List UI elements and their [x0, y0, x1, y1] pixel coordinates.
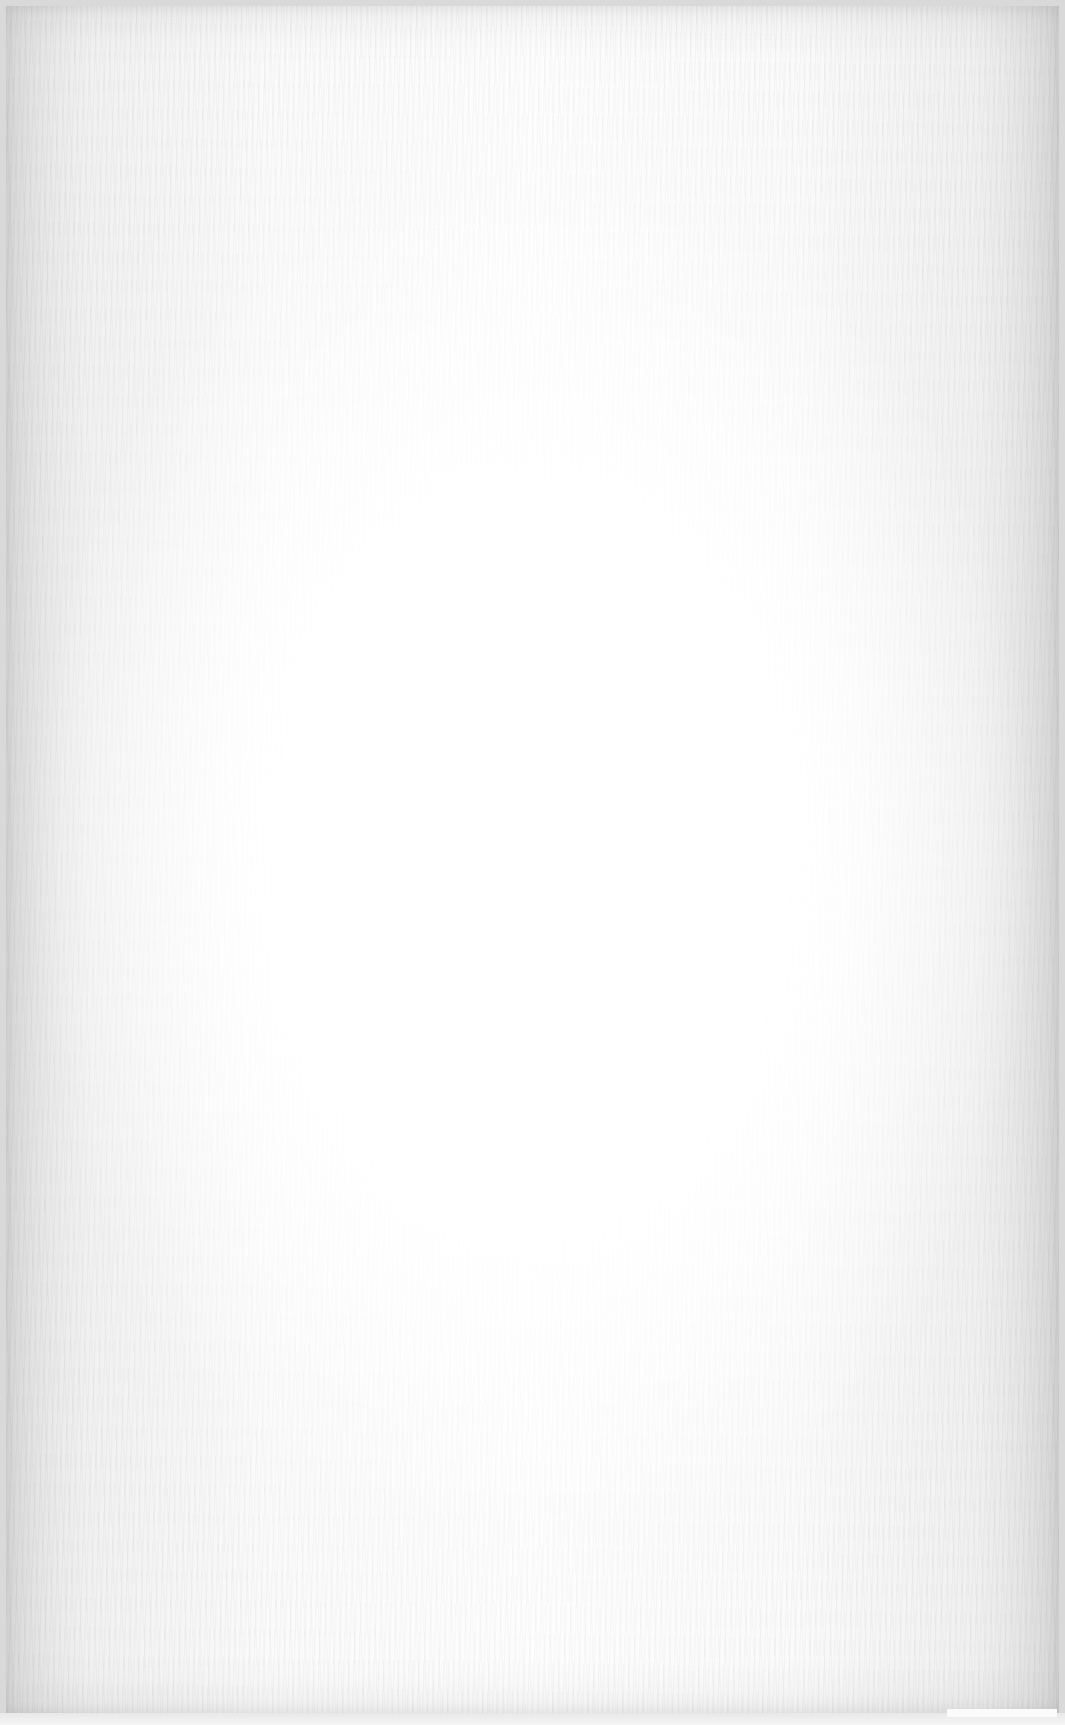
blank-paper-sheet: [6, 6, 1059, 1713]
paper-edge-shadow: [6, 6, 1059, 1713]
bottom-edge-strip: [0, 1713, 1065, 1725]
bottom-right-light-patch: [947, 1709, 1057, 1717]
background-frame: [0, 0, 1065, 1725]
